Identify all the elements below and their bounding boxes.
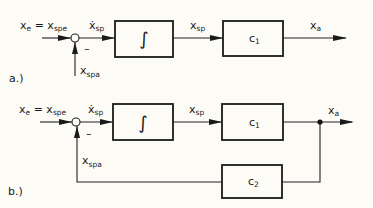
input-label-a: xe = xspe [20,19,68,33]
diagram-tag-b: b.) [8,185,23,198]
summing-junction-a [71,34,79,42]
mid-label-a: xsp [190,19,205,33]
feedback-arrow-a [72,42,78,54]
block-diagrams: xe = xspe ẋsp – xspa ∫ xsp c1 xa a.) xe … [0,0,373,208]
input-label-b: xe = xspe [19,103,67,117]
feedback-label-b: xspa [82,154,102,169]
gain-input-arrow-b [209,119,222,125]
integrator-symbol-b: ∫ [138,112,147,133]
feedback-arrow-b [74,126,80,138]
integrator-symbol-a: ∫ [139,28,148,49]
diagram-a: xe = xspe ẋsp – xspa ∫ xsp c1 xa a.) [9,19,347,85]
diagram-b: xe = xspe ẋsp – xspa ∫ xsp c1 c2 xa b.) [8,103,354,198]
minus-sign-a: – [84,42,90,55]
input-arrow-b [59,119,72,125]
summing-junction-b [72,118,80,126]
input-arrow-a [58,35,71,41]
mid-label-b: xsp [189,103,204,117]
integrator-input-arrow-a [102,35,115,41]
output-arrow-b [340,119,354,125]
output-label-a: xa [310,19,321,33]
integrator-input-arrow-b [100,119,113,125]
sum-output-label-b: ẋsp [88,103,103,117]
gain-input-arrow-a [210,35,223,41]
minus-sign-b: – [86,127,92,140]
diagram-tag-a: a.) [9,72,24,85]
output-label-b: xa [328,104,339,118]
sum-output-label-a: ẋsp [89,19,104,33]
output-arrow-a [333,35,347,41]
feedback-label-a: xspa [80,64,100,79]
feedback-path-to-c2-b [282,122,320,182]
